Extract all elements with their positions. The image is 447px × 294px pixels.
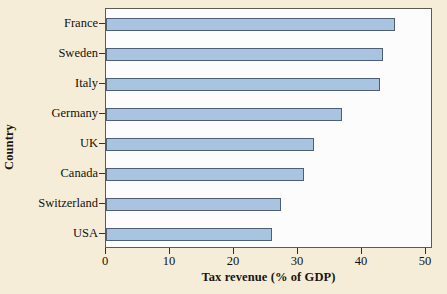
bars-container bbox=[106, 9, 431, 247]
y-axis-tick-label: UK bbox=[18, 137, 98, 150]
y-axis-tick-label: Switzerland bbox=[18, 197, 98, 210]
bar bbox=[106, 48, 383, 61]
bar bbox=[106, 108, 342, 121]
bar bbox=[106, 168, 304, 181]
x-axis-tick-label: 40 bbox=[355, 255, 368, 268]
y-axis-tick-label: Italy bbox=[18, 77, 98, 90]
bar bbox=[106, 78, 380, 91]
y-axis-tick-label: France bbox=[18, 17, 98, 30]
y-axis-title: Country bbox=[0, 0, 18, 294]
y-axis-tick-label: Germany bbox=[18, 107, 98, 120]
plot-area bbox=[105, 8, 432, 248]
bar bbox=[106, 138, 314, 151]
x-axis-tick-label: 10 bbox=[163, 255, 176, 268]
y-axis-tick-label: Sweden bbox=[18, 47, 98, 60]
bar bbox=[106, 18, 395, 31]
x-axis-tick-label: 20 bbox=[227, 255, 240, 268]
y-axis-tick-label: USA bbox=[18, 227, 98, 240]
bar-chart-figure: Country FranceSwedenItalyGermanyUKCanada… bbox=[0, 0, 447, 294]
bar bbox=[106, 198, 281, 211]
x-axis-tick-label: 50 bbox=[419, 255, 432, 268]
y-axis-tick-label: Canada bbox=[18, 167, 98, 180]
bar bbox=[106, 228, 272, 241]
x-axis-tick-label: 0 bbox=[102, 255, 108, 268]
x-axis-tick-label: 30 bbox=[291, 255, 304, 268]
y-axis-tick-labels: FranceSwedenItalyGermanyUKCanadaSwitzerl… bbox=[18, 8, 98, 248]
x-axis-title: Tax revenue (% of GDP) bbox=[105, 270, 432, 285]
